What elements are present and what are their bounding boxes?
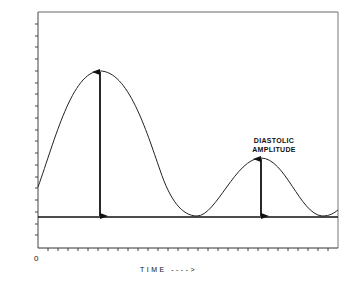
- plot-frame: [38, 12, 338, 248]
- annotation-line-2: AMPLITUDE: [243, 145, 305, 154]
- annotation-line-1: DIASTOLIC: [243, 136, 305, 145]
- x-axis-label: TIME ---->: [140, 266, 197, 273]
- diastolic-amplitude-label: DIASTOLIC AMPLITUDE: [243, 136, 305, 154]
- x-axis-origin-label: 0: [34, 254, 38, 263]
